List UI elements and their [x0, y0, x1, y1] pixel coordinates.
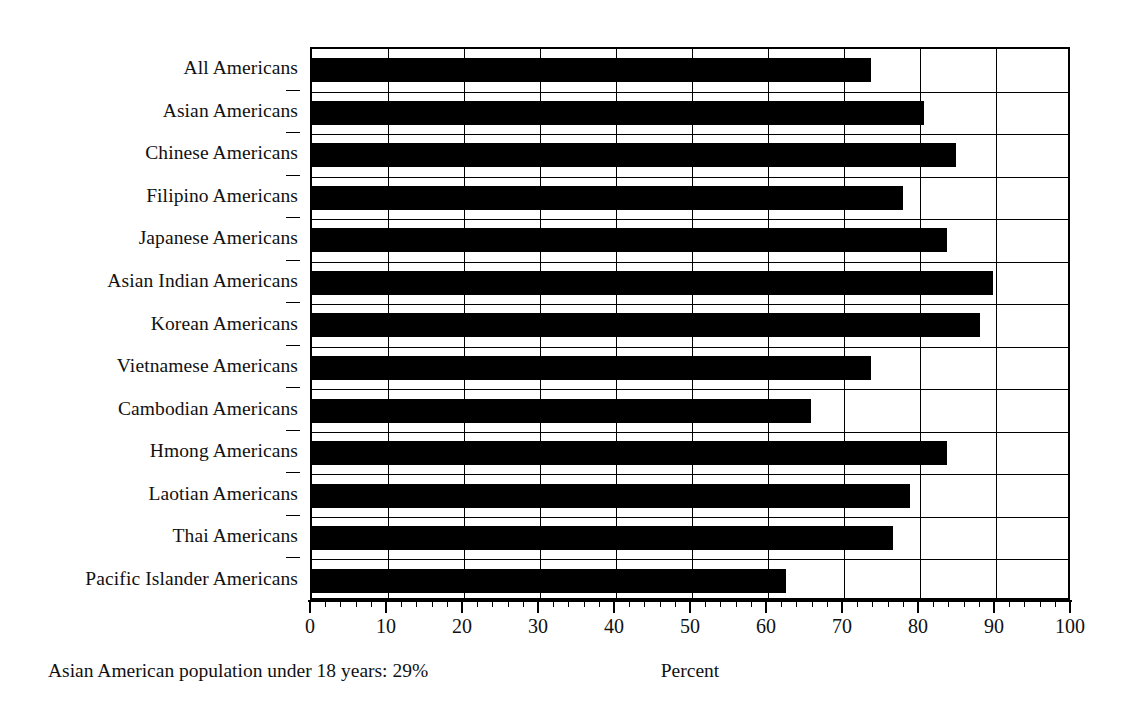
x-tick-minor — [523, 600, 524, 607]
x-tick-minor — [447, 600, 448, 607]
x-tick-minor — [1055, 600, 1056, 607]
x-tick-label: 30 — [528, 616, 548, 636]
x-tick-label: 80 — [908, 616, 928, 636]
bar-row — [312, 49, 1068, 92]
x-tick-label: 90 — [984, 616, 1004, 636]
bar[interactable] — [312, 101, 924, 125]
x-tick-minor — [796, 600, 797, 607]
x-tick-minor — [401, 600, 402, 607]
x-tick-label: 100 — [1055, 616, 1085, 636]
x-tick-minor — [644, 600, 645, 607]
x-tick-minor — [629, 600, 630, 607]
chart-page: All AmericansAsian AmericansChinese Amer… — [0, 0, 1134, 723]
x-tick-major — [385, 600, 387, 613]
category-tick — [286, 387, 300, 388]
x-tick-label: 40 — [604, 616, 624, 636]
category-label: Asian Americans — [0, 101, 298, 121]
x-tick-minor — [964, 600, 965, 607]
x-tick-minor — [827, 600, 828, 607]
x-tick-minor — [325, 600, 326, 607]
x-tick-major — [537, 600, 539, 613]
category-tick — [286, 260, 300, 261]
x-tick-minor — [584, 600, 585, 607]
category-tick — [286, 90, 300, 91]
x-tick-minor — [857, 600, 858, 607]
category-tick — [286, 345, 300, 346]
bar-row — [312, 432, 1068, 475]
x-tick-minor — [736, 600, 737, 607]
category-label: Asian Indian Americans — [0, 271, 298, 291]
bar-row — [312, 559, 1068, 602]
footnote-text: Asian American population under 18 years… — [48, 661, 428, 681]
bar[interactable] — [312, 484, 910, 508]
bar-row — [312, 347, 1068, 390]
x-tick-minor — [477, 600, 478, 607]
bar-row — [312, 304, 1068, 347]
x-tick-minor — [888, 600, 889, 607]
bar-row — [312, 517, 1068, 560]
bar[interactable] — [312, 58, 871, 82]
bar-row — [312, 474, 1068, 517]
x-axis: 0102030405060708090100 — [310, 600, 1070, 614]
category-label: Chinese Americans — [0, 143, 298, 163]
x-tick-minor — [416, 600, 417, 607]
bar[interactable] — [312, 143, 956, 167]
category-tick — [286, 515, 300, 516]
x-tick-label: 0 — [305, 616, 315, 636]
x-tick-label: 50 — [680, 616, 700, 636]
category-tick — [286, 302, 300, 303]
x-tick-major — [993, 600, 995, 613]
x-tick-major — [461, 600, 463, 613]
x-tick-minor — [568, 600, 569, 607]
x-tick-minor — [599, 600, 600, 607]
bar[interactable] — [312, 526, 893, 550]
x-tick-minor — [705, 600, 706, 607]
x-tick-major — [689, 600, 691, 613]
category-label: Vietnamese Americans — [0, 356, 298, 376]
x-tick-minor — [675, 600, 676, 607]
x-tick-major — [765, 600, 767, 613]
x-tick-minor — [492, 600, 493, 607]
bar[interactable] — [312, 271, 993, 295]
category-tick — [286, 430, 300, 431]
category-label: Cambodian Americans — [0, 399, 298, 419]
x-tick-major — [917, 600, 919, 613]
x-tick-label: 10 — [376, 616, 396, 636]
bar-row — [312, 134, 1068, 177]
x-tick-minor — [933, 600, 934, 607]
x-tick-minor — [1009, 600, 1010, 607]
bar-row — [312, 389, 1068, 432]
x-tick-label: 60 — [756, 616, 776, 636]
x-tick-minor — [948, 600, 949, 607]
x-tick-minor — [903, 600, 904, 607]
x-tick-minor — [872, 600, 873, 607]
category-label: Filipino Americans — [0, 186, 298, 206]
bar[interactable] — [312, 186, 903, 210]
category-label: Hmong Americans — [0, 441, 298, 461]
x-tick-minor — [812, 600, 813, 607]
bar[interactable] — [312, 228, 947, 252]
x-tick-minor — [1024, 600, 1025, 607]
category-tick — [286, 557, 300, 558]
x-tick-minor — [979, 600, 980, 607]
x-tick-minor — [751, 600, 752, 607]
x-tick-minor — [720, 600, 721, 607]
bar[interactable] — [312, 441, 947, 465]
x-tick-major — [309, 600, 311, 613]
x-tick-label: 70 — [832, 616, 852, 636]
x-tick-minor — [553, 600, 554, 607]
category-tick — [286, 175, 300, 176]
x-tick-minor — [371, 600, 372, 607]
x-tick-minor — [508, 600, 509, 607]
category-label: All Americans — [0, 58, 298, 78]
bar[interactable] — [312, 569, 786, 593]
x-tick-major — [1069, 600, 1071, 613]
category-tick — [286, 132, 300, 133]
bar[interactable] — [312, 399, 811, 423]
bar[interactable] — [312, 356, 871, 380]
category-label: Japanese Americans — [0, 228, 298, 248]
bar[interactable] — [312, 313, 980, 337]
category-label: Laotian Americans — [0, 484, 298, 504]
category-label: Korean Americans — [0, 314, 298, 334]
category-label: Pacific Islander Americans — [0, 569, 298, 589]
